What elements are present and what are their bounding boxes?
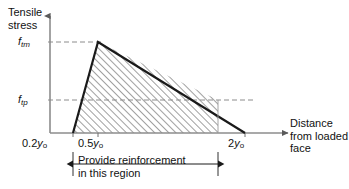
x-axis-label-line2: from loaded bbox=[290, 130, 348, 142]
y-tick-label-ftp: ftp bbox=[18, 93, 28, 108]
y-axis-label-line1: Tensile bbox=[8, 6, 42, 18]
y-tick-label-ftm: ftm bbox=[18, 35, 30, 50]
tensile-stress-diagram: Tensilestress Distancefrom loadedface ft… bbox=[0, 0, 349, 189]
x-tick-0-2y0-subscript: o bbox=[43, 141, 47, 150]
x-tick-label-0-2y0: 0.2yo bbox=[22, 137, 47, 152]
y-tick-ftm-subscript: tm bbox=[21, 40, 30, 49]
x-tick-0-2y0-base: y bbox=[37, 137, 43, 149]
x-tick-2y0-base: y bbox=[234, 137, 240, 149]
x-tick-label-0-5y0: 0.5yo bbox=[78, 137, 103, 152]
reinforcement-annotation-line1: Provide reinforcement bbox=[78, 154, 186, 166]
x-tick-0-2y0-coefficient: 0.2 bbox=[22, 137, 37, 149]
x-tick-2y0-subscript: o bbox=[240, 141, 244, 150]
x-tick-0-5y0-base: y bbox=[93, 137, 99, 149]
y-tick-ftp-subscript: tp bbox=[21, 98, 28, 107]
x-tick-0-5y0-coefficient: 0.5 bbox=[78, 137, 93, 149]
x-axis-label-line3: face bbox=[290, 142, 311, 154]
x-axis-label: Distancefrom loadedface bbox=[290, 117, 348, 155]
reinforcement-annotation-line2: in this region bbox=[78, 167, 140, 179]
y-axis-label-line2: stress bbox=[8, 19, 37, 31]
x-tick-0-5y0-subscript: o bbox=[99, 141, 103, 150]
reinforcement-annotation: Provide reinforcementin this region bbox=[78, 154, 186, 180]
x-tick-label-2y0: 2yo bbox=[228, 137, 244, 152]
y-axis-label: Tensilestress bbox=[8, 6, 42, 31]
x-axis-label-line1: Distance bbox=[290, 117, 333, 129]
